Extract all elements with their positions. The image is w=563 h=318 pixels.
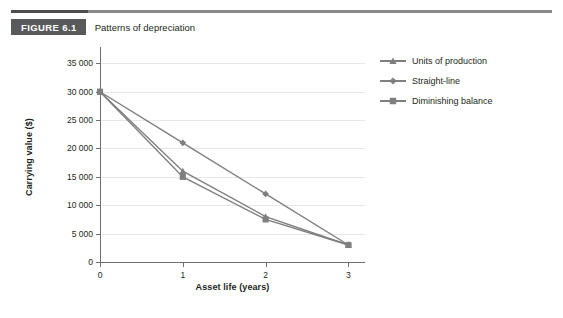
y-tick-label: 30 000	[67, 87, 93, 97]
data-point-marker	[262, 190, 269, 197]
chart-legend: Units of productionStraight-lineDiminish…	[380, 51, 560, 111]
x-tick-label: 1	[180, 270, 185, 280]
figure-caption: FIGURE 6.1 Patterns of depreciation	[11, 19, 195, 35]
data-point-marker	[389, 77, 396, 84]
y-tick-label: 20 000	[67, 143, 93, 153]
x-tick-label: 3	[346, 270, 351, 280]
legend-symbol-glyph	[387, 95, 399, 107]
legend-marker-triangle-icon	[380, 54, 406, 68]
data-point-marker	[389, 57, 396, 64]
x-axis-label: Asset life (years)	[100, 282, 365, 292]
legend-label: Straight-line	[406, 76, 460, 86]
legend-symbol-glyph	[387, 55, 399, 67]
plot-area: 05 00010 00015 00020 00025 00030 00035 0…	[100, 52, 365, 262]
data-point-marker	[180, 174, 186, 180]
figure-title: Patterns of depreciation	[86, 19, 195, 35]
data-point-marker	[345, 242, 351, 248]
data-point-marker	[263, 216, 269, 222]
series-straight-line	[97, 88, 352, 248]
legend-item[interactable]: Diminishing balance	[380, 91, 560, 111]
legend-marker-square-icon	[380, 94, 406, 108]
series-line	[100, 92, 348, 245]
legend-item[interactable]: Straight-line	[380, 71, 560, 91]
y-tick-label: 25 000	[67, 115, 93, 125]
chart-container: Carrying value ($) 05 00010 00015 00020 …	[0, 42, 563, 318]
data-point-marker	[179, 139, 186, 146]
top-divider-rule	[11, 10, 552, 13]
y-tick-label: 10 000	[67, 200, 93, 210]
y-tick-label: 35 000	[67, 58, 93, 68]
series-plot	[100, 52, 375, 267]
y-tick-label: 15 000	[67, 172, 93, 182]
data-point-marker	[97, 89, 103, 95]
y-tick-label: 0	[88, 257, 93, 267]
y-tick-label: 5 000	[72, 229, 93, 239]
x-tick-label: 0	[98, 270, 103, 280]
y-axis-label: Carrying value ($)	[23, 0, 35, 52]
y-axis-label-text: Carrying value ($)	[23, 52, 35, 262]
legend-marker-diamond-icon	[380, 74, 406, 88]
legend-symbol-glyph	[387, 75, 399, 87]
legend-label: Diminishing balance	[406, 96, 493, 106]
legend-label: Units of production	[406, 56, 487, 66]
legend-item[interactable]: Units of production	[380, 51, 560, 71]
data-point-marker	[390, 98, 396, 104]
x-tick-label: 2	[263, 270, 268, 280]
